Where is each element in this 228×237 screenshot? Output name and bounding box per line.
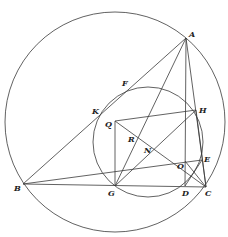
point-label-H: H (199, 106, 207, 114)
segment-BC (23, 184, 206, 187)
segment-GH (115, 110, 196, 186)
point-label-Q: Q (105, 120, 112, 128)
point-label-F: F (122, 79, 128, 87)
segment-AD (185, 38, 186, 186)
point-label-K: K (92, 107, 99, 115)
point-label-N: N (144, 146, 151, 154)
segment-AB (23, 38, 186, 184)
segment-QC (115, 121, 206, 187)
nine-point-circle (93, 87, 203, 197)
point-label-G: G (108, 189, 115, 197)
point-label-E: E (204, 155, 210, 163)
point-label-D: D (182, 189, 189, 197)
segment-HC (196, 110, 206, 187)
point-label-O: O (177, 162, 184, 170)
point-label-B: B (14, 184, 21, 192)
segment-BE (23, 160, 202, 184)
point-label-C: C (205, 189, 211, 197)
segment-QH (115, 110, 196, 121)
point-label-R: R (128, 135, 135, 143)
geometry-diagram: ABCDEFGHKNOQR (0, 0, 228, 237)
point-label-A: A (189, 30, 195, 38)
